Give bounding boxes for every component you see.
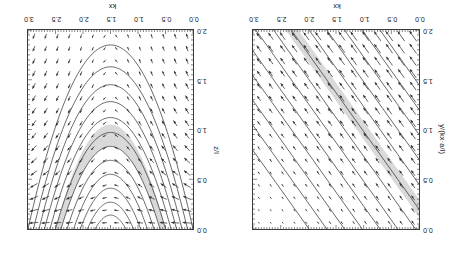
y-tick-labels-right: 0.00.51.01.52.0 <box>197 31 215 230</box>
vector-arrowhead <box>56 61 58 64</box>
vector-arrowhead <box>185 120 188 123</box>
x-tick-label: 2.0 <box>304 16 314 23</box>
x-tick-label: 1.5 <box>107 16 117 23</box>
x-axis-title-right: kx <box>0 2 225 11</box>
vector-arrowhead <box>45 48 47 51</box>
contour-line <box>74 174 148 229</box>
x-tick-label: 1.5 <box>332 16 342 23</box>
x-tick-label: 0.0 <box>415 16 425 23</box>
y-tick-label: 2.0 <box>423 28 433 35</box>
vector-arrowhead <box>151 34 153 36</box>
vector-arrowhead <box>163 46 165 48</box>
vector-arrowhead <box>139 34 141 36</box>
vector-arrowhead <box>32 123 35 126</box>
vector-arrowhead <box>151 47 153 49</box>
vector-arrowhead <box>33 36 35 39</box>
vector-arrowhead <box>139 47 141 49</box>
y-tick-label: 1.5 <box>197 77 207 84</box>
figure-canvas: 0.00.51.01.52.02.53.0 0.00.51.01.52.0 kx… <box>0 0 449 264</box>
contour-line <box>253 30 419 229</box>
vector-arrowhead <box>56 49 58 51</box>
vector-arrowhead <box>80 61 82 63</box>
vector-arrowhead <box>103 185 105 187</box>
panel-left: 0.00.51.01.52.02.53.0 0.00.51.01.52.0 kx… <box>225 0 449 264</box>
y-axis-title-right: z/l <box>212 146 221 154</box>
x-tick-label: 0.5 <box>162 16 172 23</box>
vector-arrowhead <box>186 34 188 37</box>
vector-arrowhead <box>57 36 59 38</box>
vector-arrowhead <box>68 49 70 51</box>
y-tick-label: 1.0 <box>197 127 207 134</box>
vector-arrowhead <box>80 49 82 51</box>
vector-arrowhead <box>163 34 165 36</box>
plot-area-right <box>27 29 194 230</box>
vector-arrowhead <box>68 36 70 38</box>
vector-arrowhead <box>68 61 70 63</box>
right-panel-plot-svg <box>28 30 193 229</box>
vector-arrowhead <box>174 34 176 36</box>
y-tick-label: 2.0 <box>197 28 207 35</box>
left-panel-plot-svg <box>253 30 419 229</box>
vector-arrowhead <box>183 221 186 224</box>
vector-arrowhead <box>149 209 152 212</box>
vector-arrowhead <box>80 36 82 38</box>
vector-arrowhead <box>174 46 176 49</box>
y-axis-title-left: y/(kx·a/l) <box>438 124 447 154</box>
x-tick-labels-right: 0.00.51.01.52.02.53.0 <box>29 13 194 23</box>
y-tick-label: 1.0 <box>423 127 433 134</box>
vector-arrowhead <box>127 35 128 37</box>
x-tick-label: 1.0 <box>134 16 144 23</box>
x-tick-label: 1.0 <box>360 16 370 23</box>
panel-right: 0.00.51.01.52.02.53.0 0.00.51.01.52.0 kx… <box>0 0 225 264</box>
x-axis-title-left: kx <box>225 2 449 11</box>
vector-arrowhead <box>114 185 116 187</box>
x-tick-label: 2.5 <box>52 16 62 23</box>
vector-arrowhead <box>127 47 128 49</box>
vector-arrowhead <box>151 59 153 61</box>
y-tick-label: 0.0 <box>197 227 207 234</box>
vector-arrowhead <box>45 36 47 38</box>
vector-arrowhead <box>102 222 104 224</box>
vector-arrowhead <box>114 222 116 224</box>
contour-line <box>61 146 160 229</box>
x-tick-label: 2.5 <box>277 16 287 23</box>
contour-line <box>253 30 419 187</box>
vector-arrowhead <box>163 59 165 62</box>
y-tick-label: 0.0 <box>423 227 433 234</box>
contour-lines-left <box>253 30 419 229</box>
x-tick-label: 0.5 <box>387 16 397 23</box>
x-tick-labels-left: 0.00.51.01.52.02.53.0 <box>254 13 420 23</box>
x-tick-label: 2.0 <box>79 16 89 23</box>
plot-area-left <box>252 29 420 230</box>
vector-arrowhead <box>92 49 93 51</box>
vector-field-left <box>257 31 417 225</box>
contour-line <box>80 188 141 229</box>
vector-arrowhead <box>92 36 93 38</box>
vector-arrowhead <box>139 59 141 61</box>
y-tick-label: 0.5 <box>423 177 433 184</box>
x-tick-label: 3.0 <box>24 16 34 23</box>
y-tick-label: 1.5 <box>423 77 433 84</box>
contour-line <box>87 202 133 229</box>
y-tick-label: 0.5 <box>197 177 207 184</box>
vector-arrowhead <box>137 209 140 211</box>
contour-line <box>39 85 182 229</box>
x-tick-label: 3.0 <box>249 16 259 23</box>
x-tick-label: 0.0 <box>189 16 199 23</box>
